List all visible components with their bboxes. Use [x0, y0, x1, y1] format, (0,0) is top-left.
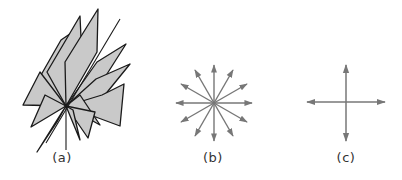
- panel-b-arrows: [176, 65, 252, 141]
- panel-a-label: (a): [52, 150, 72, 165]
- panel-c-label: (c): [337, 150, 356, 165]
- panel-c-arrows: [307, 65, 385, 141]
- panel-b-label: (b): [203, 150, 223, 165]
- center-point: [64, 104, 68, 108]
- panel-a-planes: [23, 9, 130, 152]
